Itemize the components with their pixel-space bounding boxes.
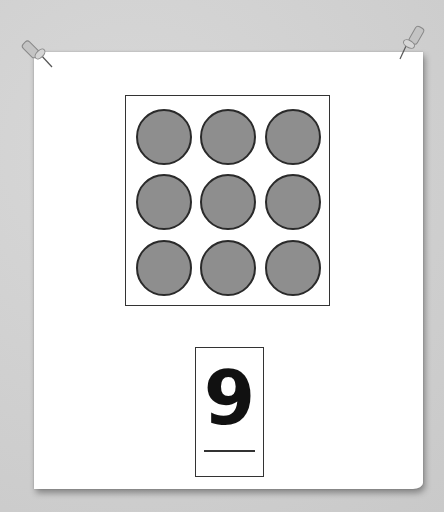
dot	[265, 240, 321, 296]
dot	[136, 240, 192, 296]
dot	[200, 240, 256, 296]
numeral: 9	[196, 356, 263, 440]
pushpin-icon	[20, 34, 60, 74]
dot	[265, 109, 321, 165]
dot-grid-box	[125, 95, 330, 306]
writing-line	[204, 450, 255, 452]
pushpin-icon	[392, 24, 432, 64]
dot	[200, 109, 256, 165]
number-card: 9	[195, 347, 264, 477]
dot	[265, 174, 321, 230]
dot	[136, 174, 192, 230]
dot	[200, 174, 256, 230]
dot	[136, 109, 192, 165]
